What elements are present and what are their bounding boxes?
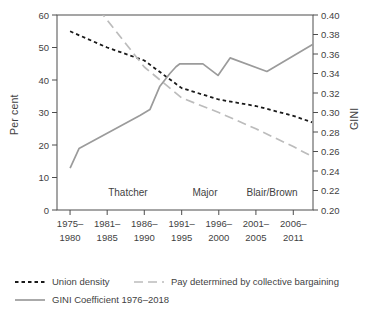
x-tick-label: 1986– (131, 218, 158, 229)
left-tick-label: 30 (38, 107, 49, 118)
left-tick-label: 60 (38, 10, 49, 21)
legend-item-union-density: Union density (14, 276, 110, 287)
right-tick-label: 0.36 (321, 49, 340, 60)
legend-swatch-gini-icon (14, 297, 46, 303)
plot-wrap: 01020304050600.200.220.240.260.280.300.3… (0, 0, 375, 252)
x-tick-label: 1975– (57, 218, 84, 229)
chart-plot: 01020304050600.200.220.240.260.280.300.3… (0, 0, 375, 252)
legend-item-collective-bargaining: Pay determined by collective bargaining (133, 276, 339, 287)
right-tick-label: 0.34 (321, 68, 340, 79)
x-tick-label: 1980 (59, 232, 80, 243)
series-line-2 (70, 44, 313, 168)
legend: Union density Pay determined by collecti… (0, 268, 375, 318)
era-label-major: Major (192, 187, 218, 198)
legend-swatch-collective-bargaining-icon (133, 279, 165, 285)
series-line-1 (90, 0, 312, 156)
right-tick-label: 0.32 (321, 88, 340, 99)
left-tick-label: 10 (38, 172, 49, 183)
x-tick-label: 2005 (245, 232, 266, 243)
x-tick-label: 2011 (283, 232, 303, 243)
y-axis-right-title: GINI (348, 86, 360, 152)
legend-item-gini: GINI Coefficient 1976–2018 (14, 294, 169, 305)
right-tick-label: 0.40 (321, 10, 340, 21)
x-tick-label: 1995 (171, 232, 192, 243)
x-tick-label: 2006– (280, 218, 307, 229)
left-tick-label: 0 (44, 205, 49, 216)
y-axis-left-title: Per cent (8, 62, 20, 167)
legend-label-gini: GINI Coefficient 1976–2018 (52, 294, 169, 305)
right-tick-label: 0.20 (321, 205, 340, 216)
era-label-thatcher: Thatcher (108, 187, 148, 198)
right-tick-label: 0.28 (321, 127, 340, 138)
legend-swatch-union-density-icon (14, 279, 46, 285)
x-tick-label: 1991– (168, 218, 195, 229)
right-tick-label: 0.26 (321, 146, 340, 157)
left-tick-label: 50 (38, 42, 49, 53)
x-tick-label: 2001– (243, 218, 270, 229)
series-line-0 (70, 31, 312, 122)
right-tick-label: 0.38 (321, 29, 340, 40)
chart-figure: 01020304050600.200.220.240.260.280.300.3… (0, 0, 375, 318)
x-tick-label: 1985 (97, 232, 118, 243)
right-tick-label: 0.30 (321, 107, 340, 118)
right-tick-label: 0.22 (321, 185, 340, 196)
right-tick-label: 0.24 (321, 166, 340, 177)
x-tick-label: 1981– (94, 218, 121, 229)
plot-frame (57, 15, 313, 210)
legend-label-union-density: Union density (52, 276, 110, 287)
x-tick-label: 1996– (206, 218, 233, 229)
legend-label-collective-bargaining: Pay determined by collective bargaining (171, 276, 339, 287)
x-tick-label: 2000 (208, 232, 229, 243)
x-tick-label: 1990 (134, 232, 155, 243)
left-tick-label: 20 (38, 140, 49, 151)
era-label-blair-brown: Blair/Brown (246, 187, 297, 198)
left-tick-label: 40 (38, 75, 49, 86)
